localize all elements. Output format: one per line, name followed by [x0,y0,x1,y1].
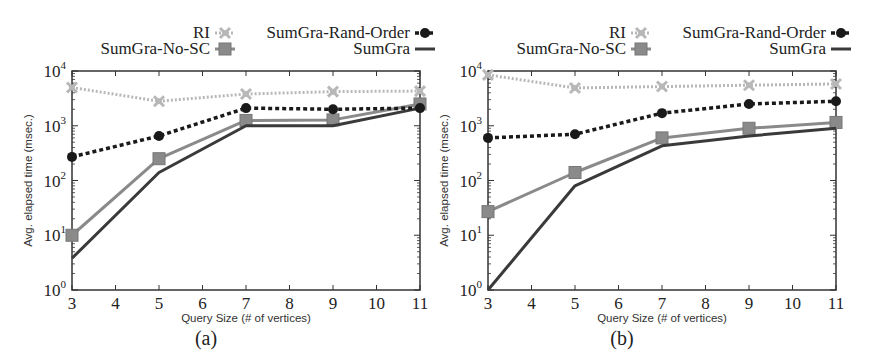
x-tick-label: 4 [111,294,120,313]
y-axis-label: Avg. elapsed time (msec.) [22,114,34,247]
data-point-marker [153,153,165,165]
x-tick-label: 6 [614,294,623,313]
y-tick-label: 103 [460,114,483,136]
legend: RISumGra-Rand-OrderSumGra-No-SCSumGra [516,23,851,58]
y-axis-label: Avg. elapsed time (msec.) [438,114,450,247]
series-no-sc [66,98,426,241]
x-tick-label: 8 [701,294,710,313]
data-point-marker [67,152,77,162]
series-ri [67,82,425,106]
x-tick-label: 3 [484,294,493,313]
x-tick-label: 5 [155,294,164,313]
data-point-marker [241,89,251,99]
data-point-marker [744,99,754,109]
y-axis: 100101102103104Avg. elapsed time (msec.) [438,59,836,300]
data-point-marker [154,131,164,141]
data-point-marker [570,129,580,139]
legend-label: SumGra-No-SC [516,39,626,58]
y-tick-label: 102 [460,169,483,191]
line-chart-b: RISumGra-Rand-OrderSumGra-No-SCSumGra345… [416,0,876,364]
x-tick-label: 6 [198,294,207,313]
y-tick-label: 104 [460,59,483,81]
data-point-marker [657,82,667,92]
data-point-marker [656,132,668,144]
y-tick-label: 100 [460,278,483,300]
y-tick-label: 102 [44,169,67,191]
data-point-marker [66,229,78,241]
data-point-marker [743,122,755,134]
y-tick-label: 104 [44,59,67,81]
legend-marker-icon [635,43,647,55]
legend-marker-icon [219,43,231,55]
data-point-marker [569,166,581,178]
plot-frame [488,71,836,290]
y-tick-label: 101 [44,223,67,245]
chart-panel-a: RISumGra-Rand-OrderSumGra-No-SCSumGra345… [0,0,438,364]
x-axis-label: Query Size (# of vertices) [181,312,311,324]
legend-label: SumGra [353,39,410,58]
y-axis: 100101102103104Avg. elapsed time (msec.) [22,59,420,300]
data-point-marker [328,104,338,114]
x-tick-label: 5 [571,294,580,313]
x-tick-label: 3 [68,294,77,313]
x-tick-label: 8 [285,294,294,313]
data-point-marker [241,103,251,113]
x-tick-label: 11 [828,294,844,313]
legend-label: SumGra-No-SC [100,39,210,58]
y-tick-label: 101 [460,223,483,245]
legend-label: SumGra [769,39,826,58]
legend-item-no-sc: SumGra-No-SC [516,39,651,58]
legend-item-no-sc: SumGra-No-SC [100,39,235,58]
x-tick-label: 7 [658,294,667,313]
x-tick-label: 10 [368,294,385,313]
data-point-marker [482,206,494,218]
legend-marker-icon [836,28,846,38]
chart-panel-b: RISumGra-Rand-OrderSumGra-No-SCSumGra345… [416,0,854,364]
series-sumgra [488,128,836,290]
x-tick-label: 9 [329,294,338,313]
y-tick-label: 100 [44,278,67,300]
data-point-marker [657,108,667,118]
y-tick-label: 103 [44,114,67,136]
data-point-marker [830,116,842,128]
x-tick-label: 9 [745,294,754,313]
subfigure-caption: (a) [195,327,217,350]
data-point-marker [483,133,493,143]
legend-item-sumgra: SumGra [769,39,851,58]
x-tick-label: 10 [784,294,801,313]
subfigure-caption: (b) [610,327,633,350]
x-axis-label: Query Size (# of vertices) [597,312,727,324]
legend: RISumGra-Rand-OrderSumGra-No-SCSumGra [100,23,435,58]
line-chart-a: RISumGra-Rand-OrderSumGra-No-SCSumGra345… [0,0,438,364]
x-tick-label: 4 [527,294,536,313]
series-sumgra [72,108,420,258]
x-tick-label: 7 [242,294,251,313]
data-point-marker [831,96,841,106]
